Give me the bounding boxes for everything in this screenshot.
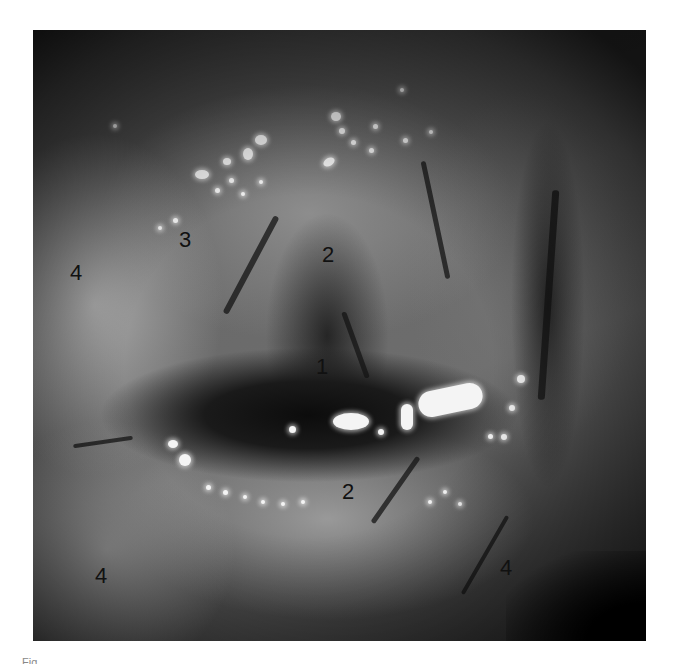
label-1: 1 — [316, 356, 328, 378]
label-4-lower-right: 4 — [500, 557, 512, 579]
label-3: 3 — [179, 229, 191, 251]
label-4-lower-left: 4 — [95, 565, 107, 587]
label-2-upper: 2 — [322, 244, 334, 266]
clinical-photo — [33, 30, 646, 641]
label-2-lower: 2 — [342, 481, 354, 503]
figure-caption-cropped: Fig. — [22, 656, 40, 664]
vignette — [33, 30, 646, 641]
label-4-upper-left: 4 — [70, 262, 82, 284]
